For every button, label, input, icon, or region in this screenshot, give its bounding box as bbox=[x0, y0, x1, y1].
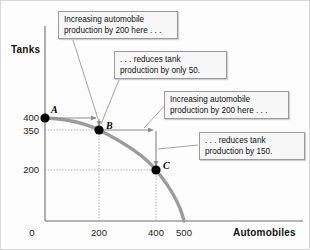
point-label-a: A bbox=[51, 104, 58, 115]
y-tick-label-400: 400 bbox=[13, 112, 39, 123]
callout-increasing-auto-2: Increasing automobile production by 200 … bbox=[164, 91, 289, 119]
callout-2-line-2: production by only 50. bbox=[120, 66, 222, 77]
callout-4-line-1: . . . reduces tank bbox=[205, 136, 300, 147]
chart-frame: Tanks Automobiles 400 350 200 0 200 400 … bbox=[0, 0, 310, 250]
point-label-b: B bbox=[106, 120, 113, 131]
callout-reduces-tank-150: . . . reduces tank production by 150. bbox=[199, 132, 305, 160]
callout-reduces-tank-50: . . . reduces tank production by only 50… bbox=[114, 51, 227, 79]
callout-3-line-2: production by 200 here . . . bbox=[170, 106, 284, 117]
callout-2-line-1: . . . reduces tank bbox=[120, 55, 222, 66]
x-axis-title: Automobiles bbox=[233, 227, 296, 238]
x-tick-label-0: 0 bbox=[17, 227, 47, 238]
y-tick-label-350: 350 bbox=[13, 125, 39, 136]
data-points bbox=[40, 113, 160, 174]
callout-increasing-auto-1: Increasing automobile production by 200 … bbox=[58, 11, 178, 39]
y-axis-title: Tanks bbox=[11, 44, 40, 55]
x-tick-label-400: 400 bbox=[141, 227, 171, 238]
x-tick-label-200: 200 bbox=[84, 227, 114, 238]
point-label-c: C bbox=[163, 160, 170, 171]
callout-3-line-1: Increasing automobile bbox=[170, 95, 284, 106]
callout-4-line-2: production by 150. bbox=[205, 147, 300, 158]
callout-1-line-2: production by 200 here . . . bbox=[64, 26, 173, 37]
y-tick-label-200: 200 bbox=[13, 164, 39, 175]
guide-lines bbox=[45, 130, 156, 221]
x-tick-label-500: 500 bbox=[169, 227, 199, 238]
callout-1-line-1: Increasing automobile bbox=[64, 15, 173, 26]
